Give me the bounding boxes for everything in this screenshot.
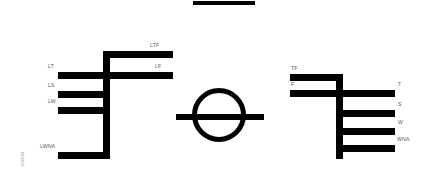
figure-side-code: 000004: [20, 151, 25, 166]
right-trunk: [336, 74, 343, 159]
branch-label-lt: LT: [48, 63, 54, 69]
branch-label-s: S: [398, 101, 402, 107]
branch-label-ltf: LTF: [150, 42, 159, 48]
branch-bar-s: [343, 110, 395, 117]
branch-bar-ls: [58, 91, 110, 98]
branch-bar-tf: [290, 74, 343, 81]
left-trunk: [103, 51, 110, 159]
top-rule: [193, 1, 255, 5]
branch-bar-lt: [58, 72, 110, 79]
branch-label-lwna: LWNA: [40, 143, 55, 149]
branch-bar-wna: [343, 145, 395, 152]
branch-label-wna: WNA: [397, 136, 410, 142]
branch-bar-lwna: [58, 152, 110, 159]
branch-label-ls: LS: [48, 82, 55, 88]
branch-bar-t: [343, 90, 395, 97]
branch-bar-lw: [58, 107, 110, 114]
branch-label-tf: TF: [291, 65, 298, 71]
branch-label-f: F: [291, 81, 294, 87]
branch-bar-lf: [110, 72, 173, 79]
branch-label-lw: LW: [48, 98, 56, 104]
branch-label-t: T: [398, 81, 401, 87]
patent-figure: LTFLFLTLSLWLWNA TFFTSWWNA 000004: [0, 0, 431, 176]
branch-label-lf: LF: [155, 63, 161, 69]
branch-bar-w: [343, 128, 395, 135]
circle-outline: [192, 88, 246, 142]
branch-label-w: W: [398, 119, 403, 125]
branch-bar-f: [290, 90, 343, 97]
branch-bar-ltf: [110, 51, 173, 58]
